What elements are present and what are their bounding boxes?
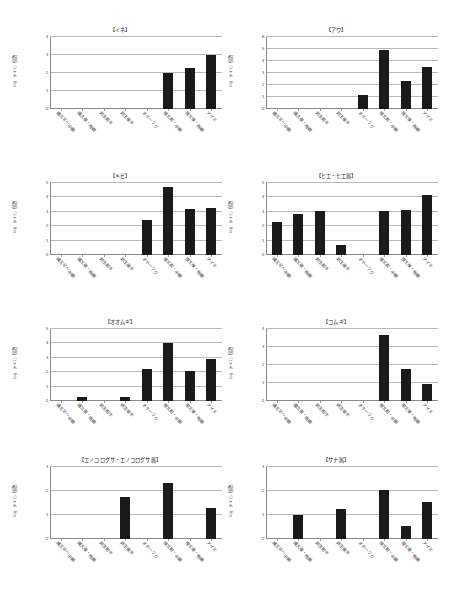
y-tick-label: 2 [262,83,265,87]
x-axis-labels: 縄文早～中期縄文後・晩期弥生前半弥生後半オホーツク擦文前・中期擦文後・晩期アイヌ [266,109,438,157]
bar-slot [352,37,374,109]
bar-slot [50,37,72,109]
bar [163,187,173,255]
y-tick-label: 2 [46,71,49,75]
chart-title: 【オオムギ】 [12,318,228,327]
y-tick-label: 2 [262,363,265,367]
y-tick-label: 1 [262,381,265,385]
y-tick-label: 4 [46,195,49,199]
y-tick-label: 3 [46,53,49,57]
bar [163,73,173,109]
bar [422,502,432,539]
x-label-slot: アイヌ [417,109,439,157]
bar-slot [136,329,158,401]
x-label-slot: 弥生前半 [93,109,115,157]
bar [379,211,389,255]
bar-slot [72,37,94,109]
bar-slot [72,183,94,255]
chart-panel: 【エノコログサ・エノコログサ属】log（n+1）個数0123縄文早～中期縄文後・… [12,456,228,599]
bar-slot [352,329,374,401]
x-label-slot: 縄文早～中期 [50,109,72,157]
bar [206,55,216,109]
x-label-slot: 縄文早～中期 [266,401,288,449]
bar-slot [93,329,115,401]
bar-slot [266,329,288,401]
bar-slot [50,329,72,401]
x-label-slot: 弥生後半 [115,255,137,303]
x-label-slot: 弥生前半 [309,255,331,303]
bar-slot [115,329,137,401]
x-tick-label: 弥生後半 [120,402,135,418]
x-label-slot: 縄文早～中期 [266,539,288,587]
bar-slot [374,329,396,401]
bar-slot [288,183,310,255]
x-label-slot: 擦文後・晩期 [395,255,417,303]
x-label-slot: オホーツク [352,539,374,587]
bar-series [50,183,222,255]
x-label-slot: 擦文前・中期 [374,109,396,157]
bar-slot [288,329,310,401]
x-label-slot: 擦文後・晩期 [395,539,417,587]
bar-series [266,467,438,539]
y-tick-label: 3 [46,356,49,360]
x-label-slot: アイヌ [201,401,223,449]
x-tick-label: アイヌ [206,540,219,553]
bar [206,359,216,401]
x-axis-labels: 縄文早～中期縄文後・晩期弥生前半弥生後半オホーツク擦文前・中期擦文後・晩期アイヌ [266,401,438,449]
y-axis-label: log（n+1）個数 [11,40,19,102]
x-label-slot: 縄文後・晩期 [288,401,310,449]
x-tick-label: 弥生前半 [314,256,329,272]
bar-slot [115,183,137,255]
axis-area: 01234 [50,37,222,109]
y-axis-label: log（n+1）個数 [227,332,235,394]
x-tick-label: アイヌ [206,402,219,415]
axis-area: 012345 [50,183,222,255]
bar [401,526,411,539]
y-tick-label: 0 [262,399,265,403]
x-label-slot: アイヌ [417,539,439,587]
bar-slot [201,467,223,539]
y-axis-label: log（n+1）個数 [227,470,235,532]
axis-area: 012345 [50,329,222,401]
x-label-slot: 弥生後半 [115,401,137,449]
x-axis-labels: 縄文早～中期縄文後・晩期弥生前半弥生後半オホーツク擦文前・中期擦文後・晩期アイヌ [50,255,222,303]
chart-panel: 【イネ】log（n+1）個数01234縄文早～中期縄文後・晩期弥生前半弥生後半オ… [12,26,228,172]
x-label-slot: 擦文後・晩期 [179,255,201,303]
x-label-slot: オホーツク [352,401,374,449]
y-tick-label: 2 [46,489,49,493]
bar-slot [266,467,288,539]
y-tick-label: 2 [46,224,49,228]
x-label-slot: 縄文早～中期 [50,539,72,587]
bar-slot [374,467,396,539]
x-label-slot: 擦文後・晩期 [395,401,417,449]
y-tick-label: 5 [46,181,49,185]
x-label-slot: 擦文後・晩期 [395,109,417,157]
x-label-slot: アイヌ [201,255,223,303]
chart-panel: 【オオムギ】log（n+1）個数012345縄文早～中期縄文後・晩期弥生前半弥生… [12,318,228,456]
x-label-slot: アイヌ [417,401,439,449]
bar [422,195,432,255]
bar [358,95,368,109]
x-label-slot: 弥生後半 [331,539,353,587]
bar [206,208,216,255]
bar [401,81,411,109]
bar-slot [417,467,439,539]
bar-slot [395,467,417,539]
y-tick-label: 1 [262,95,265,99]
bar-slot [72,467,94,539]
bar-series [50,467,222,539]
bar [293,515,303,539]
bar-slot [201,37,223,109]
x-label-slot: オホーツク [352,109,374,157]
bar-slot [158,467,180,539]
bar-slot [309,467,331,539]
bar-series [50,329,222,401]
y-tick-label: 5 [262,181,265,185]
x-label-slot: 縄文後・晩期 [72,255,94,303]
bar-slot [266,37,288,109]
x-label-slot: 弥生後半 [331,255,353,303]
y-tick-label: 0 [46,253,49,257]
y-tick-label: 2 [262,224,265,228]
y-tick-label: 0 [262,107,265,111]
y-tick-label: 4 [262,327,265,331]
